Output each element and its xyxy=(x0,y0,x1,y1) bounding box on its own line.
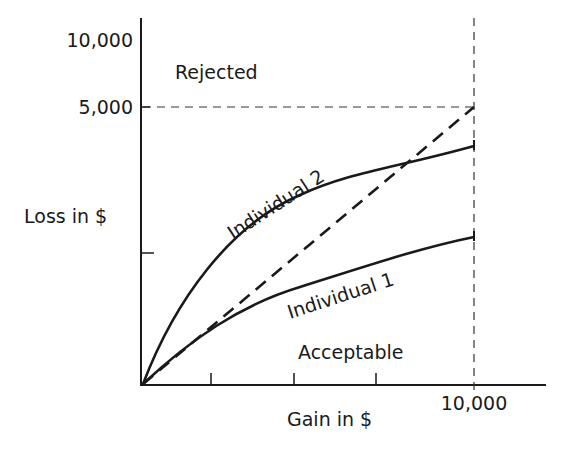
region-label-rejected: Rejected xyxy=(175,61,258,83)
y-tick-label-5000: 5,000 xyxy=(79,96,133,118)
x-tick-label-10000: 10,000 xyxy=(441,392,507,414)
curve-label-individual-2: Individual 2 xyxy=(223,165,328,244)
region-label-acceptable: Acceptable xyxy=(298,341,403,363)
chart: 10,000 5,000 Loss in $ 10,000 Gain in $ … xyxy=(0,0,569,452)
curve-label-individual-1: Individual 1 xyxy=(284,268,396,323)
x-axis-label: Gain in $ xyxy=(287,408,372,430)
y-tick-label-10000: 10,000 xyxy=(67,29,133,51)
y-axis-label: Loss in $ xyxy=(24,205,107,227)
